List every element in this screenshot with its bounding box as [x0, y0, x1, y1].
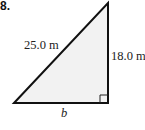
right-triangle-diagram	[0, 0, 145, 130]
triangle-shape	[14, 3, 108, 103]
hypotenuse-label: 25.0 m	[24, 38, 59, 53]
base-label: b	[61, 106, 67, 121]
vertical-leg-label: 18.0 m	[111, 49, 145, 64]
